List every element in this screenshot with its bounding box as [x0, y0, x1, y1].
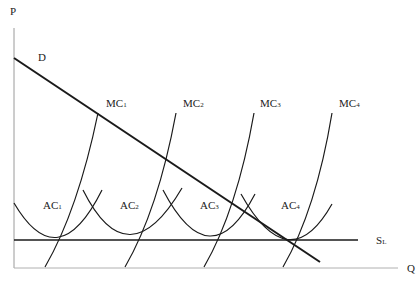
- mc3-label-sub: 3: [277, 101, 281, 109]
- ac3-label-main: AC: [200, 199, 215, 211]
- x-axis-label: Q: [407, 263, 415, 274]
- ac3-label-sub: 3: [215, 203, 219, 211]
- ac3-label: AC3: [200, 200, 219, 211]
- mc2-label: MC2: [183, 98, 204, 109]
- demand-label: D: [38, 52, 46, 63]
- mc2-label-main: MC: [183, 97, 200, 109]
- y-axis-label: P: [10, 6, 16, 17]
- mc1-label: MC1: [106, 98, 127, 109]
- ac4-label-main: AC: [281, 199, 296, 211]
- mc3-label-main: MC: [260, 97, 277, 109]
- ac2-curve: [83, 188, 182, 235]
- ac1-label-sub: 1: [58, 203, 62, 211]
- mc4-label: MC4: [339, 98, 360, 109]
- mc1-label-main: MC: [106, 97, 123, 109]
- mc4-label-main: MC: [339, 97, 356, 109]
- ac4-label: AC4: [281, 200, 300, 211]
- diagram-canvas: [0, 0, 419, 281]
- cost-curve-diagram: P Q D SL MC1 MC2 MC3 MC4 AC1 AC2 AC3 AC4: [0, 0, 419, 281]
- ac1-curve: [14, 190, 102, 238]
- mc2-label-sub: 2: [200, 101, 204, 109]
- mc4-label-sub: 4: [356, 101, 360, 109]
- ac2-label: AC2: [120, 200, 139, 211]
- mc4-curve: [283, 113, 332, 267]
- ac2-label-sub: 2: [135, 203, 139, 211]
- mc3-label: MC3: [260, 98, 281, 109]
- ac4-label-sub: 4: [296, 203, 300, 211]
- ac1-label-main: AC: [43, 199, 58, 211]
- demand-line: [14, 58, 320, 262]
- supply-label: SL: [376, 235, 386, 246]
- supply-label-sub: L: [382, 238, 386, 246]
- mc1-curve: [45, 113, 98, 267]
- mc1-label-sub: 1: [123, 101, 127, 109]
- ac2-label-main: AC: [120, 199, 135, 211]
- ac1-label: AC1: [43, 200, 62, 211]
